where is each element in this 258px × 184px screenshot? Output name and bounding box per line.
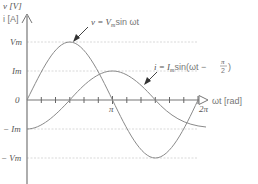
neg-im-tick-label: − Im — [3, 124, 21, 134]
chart: v [V] i [A] ωt [rad] Vm Im 0 − Im − Vm π… — [0, 0, 258, 184]
two-pi-tick-label: 2π — [199, 104, 209, 114]
current-arrowhead-icon — [144, 77, 151, 85]
pi-tick-label: π — [109, 104, 114, 114]
zero-tick-label: 0 — [15, 95, 20, 105]
neg-vm-tick-label: − Vm — [1, 153, 22, 163]
current-series-label: i = Imsin(ωt − — [154, 62, 206, 73]
vm-tick-label: Vm — [10, 37, 22, 47]
current-label-close: ) — [228, 62, 231, 72]
current-label-frac-den: 2 — [221, 67, 225, 74]
voltage-series-label: v = Vmsin ωt — [91, 17, 139, 28]
voltage-arrowhead-icon — [73, 34, 80, 42]
voltage-annotation-arrow — [77, 27, 88, 38]
current-label-frac-num: π — [221, 58, 225, 66]
im-tick-label: Im — [11, 66, 22, 76]
x-axis-label: ωt [rad] — [212, 96, 242, 106]
y-axis-label-i: i [A] — [3, 14, 19, 24]
y-axis-label-v: v [V] — [3, 1, 22, 11]
